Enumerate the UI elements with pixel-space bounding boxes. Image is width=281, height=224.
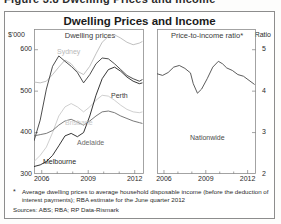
figure-caption-text: Figure 3.8 Dwelling Prices and Income xyxy=(4,0,216,5)
x-axis-tick-label: 2006 xyxy=(34,175,50,182)
plot-border xyxy=(35,30,144,174)
chart-title: Dwelling Prices and Income xyxy=(5,15,274,27)
price-to-income-plot xyxy=(157,29,256,174)
series-label-nationwide: Nationwide xyxy=(190,134,225,141)
right-y-axis-labels: 2345 xyxy=(258,29,278,174)
series-label-melbourne: Melbourne xyxy=(43,158,76,165)
series-label-sydney: Sydney xyxy=(57,48,80,55)
series-line-melbourne xyxy=(34,67,142,166)
footnote-marker: * xyxy=(13,188,22,196)
x-axis-tick-label: 2012 xyxy=(127,175,143,182)
x-axis-tick-label: 2009 xyxy=(198,175,214,182)
series-label-brisbane: Brisbane xyxy=(65,119,93,126)
y-axis-tick-label: 4 xyxy=(262,87,266,94)
right-x-axis-labels: 200620092012 xyxy=(157,175,256,187)
y-axis-tick-label: 3 xyxy=(262,128,266,135)
series-line-brisbane xyxy=(34,95,142,161)
y-axis-tick-label: 400 xyxy=(9,128,32,135)
left-y-axis-labels: 300400500600 xyxy=(7,29,32,174)
y-axis-tick-label: 300 xyxy=(9,170,32,177)
x-axis-tick-label: 2006 xyxy=(156,175,172,182)
series-line-nationwide xyxy=(157,61,255,93)
figure-caption-cropped: Figure 3.8 Dwelling Prices and Income xyxy=(0,0,281,10)
dwelling-prices-plot xyxy=(34,29,144,174)
y-axis-tick-label: 600 xyxy=(9,45,32,52)
sources-text: Sources: ABS; RBA; RP Data-Rismark xyxy=(13,206,271,214)
plot-border xyxy=(158,30,256,174)
series-label-adelaide: Adelaide xyxy=(77,139,104,146)
y-axis-tick-label: 5 xyxy=(262,45,266,52)
x-axis-tick-label: 2012 xyxy=(240,175,256,182)
chart-frame: Dwelling Prices and Income $'000 Ratio D… xyxy=(4,11,275,219)
x-axis-tick-label: 2009 xyxy=(80,175,96,182)
y-axis-tick-label: 2 xyxy=(262,170,266,177)
left-x-axis-labels: 200620092012 xyxy=(34,175,144,187)
figure-container: Figure 3.8 Dwelling Prices and Income Dw… xyxy=(0,0,281,224)
footnote-row: * Average dwelling prices to average hou… xyxy=(13,188,271,204)
footnote-text: Average dwelling prices to average house… xyxy=(22,188,271,204)
y-axis-tick-label: 500 xyxy=(9,87,32,94)
series-label-perth: Perth xyxy=(111,92,128,99)
footnote-block: * Average dwelling prices to average hou… xyxy=(13,188,271,214)
